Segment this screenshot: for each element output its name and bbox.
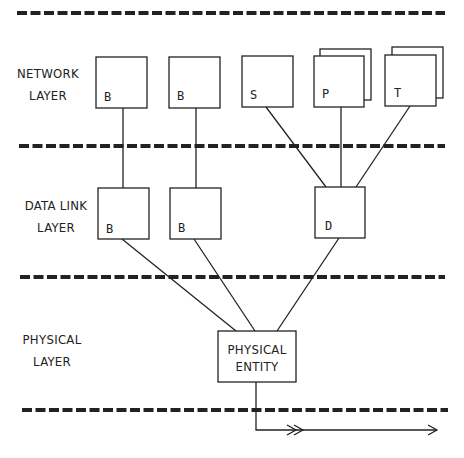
datalink-entity-b1: B — [98, 188, 149, 239]
network-entity-b2: B — [169, 57, 220, 108]
physical-entity: PHYSICAL ENTITY — [218, 331, 296, 382]
svg-text:PHYSICAL: PHYSICAL — [23, 332, 82, 347]
svg-text:B: B — [106, 222, 113, 236]
svg-text:B: B — [104, 90, 111, 104]
entity-box — [385, 55, 436, 106]
svg-text:LAYER: LAYER — [33, 354, 71, 369]
svg-text:S: S — [250, 88, 257, 102]
physical-medium-line — [256, 382, 436, 430]
layer-label-physical: PHYSICAL LAYER — [23, 332, 82, 369]
svg-text:PHYSICAL: PHYSICAL — [228, 342, 287, 357]
network-entity-t-stacked: T — [385, 47, 443, 106]
network-entity-s: S — [242, 56, 293, 107]
datalink-entity-b2: B — [170, 188, 221, 239]
svg-text:LAYER: LAYER — [37, 220, 75, 235]
svg-text:ENTITY: ENTITY — [236, 359, 279, 374]
svg-text:B: B — [177, 89, 184, 103]
connector-dl-b2-to-physical — [194, 239, 255, 331]
connector-dl-d-to-physical — [277, 238, 339, 331]
svg-text:T: T — [394, 86, 401, 100]
svg-text:NETWORK: NETWORK — [17, 66, 79, 81]
network-entity-p-stacked: P — [314, 49, 371, 107]
svg-text:P: P — [322, 87, 329, 101]
layer-label-network: NETWORK LAYER — [17, 66, 79, 103]
network-entity-b1: B — [96, 57, 147, 108]
svg-text:DATA LINK: DATA LINK — [25, 198, 88, 213]
layer-label-datalink: DATA LINK LAYER — [25, 198, 88, 235]
entity-box — [315, 187, 365, 238]
osi-layer-diagram: NETWORK LAYER DATA LINK LAYER PHYSICAL L… — [0, 0, 464, 458]
svg-text:B: B — [178, 221, 185, 235]
datalink-entity-d: D — [315, 187, 365, 238]
svg-text:D: D — [325, 219, 332, 233]
connector-dl-b1-to-physical — [122, 239, 236, 331]
svg-text:LAYER: LAYER — [29, 88, 67, 103]
